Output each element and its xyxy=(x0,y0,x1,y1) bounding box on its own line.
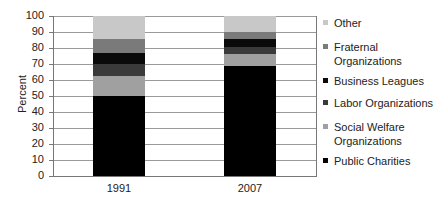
legend-swatch-icon xyxy=(323,44,328,49)
y-tick-label: 100 xyxy=(20,9,44,21)
legend-label: Social Welfare Organizations xyxy=(334,120,405,148)
x-tick-label: 2007 xyxy=(220,182,280,194)
y-tick-label: 20 xyxy=(20,137,44,149)
bar-segment xyxy=(93,96,145,176)
legend-label: Fraternal Organizations xyxy=(334,40,402,68)
bar-segment xyxy=(224,16,276,32)
y-tick-label: 80 xyxy=(20,41,44,53)
y-tick-label: 40 xyxy=(20,105,44,117)
plot-right-border xyxy=(316,16,317,177)
legend-swatch-icon xyxy=(323,100,328,105)
x-tick-label: 1991 xyxy=(89,182,149,194)
y-tick-label: 30 xyxy=(20,121,44,133)
bar-1991 xyxy=(93,16,145,176)
bar-segment xyxy=(93,53,145,64)
y-tick-label: 50 xyxy=(20,89,44,101)
y-tick-label: 90 xyxy=(20,25,44,37)
bar-2007 xyxy=(224,16,276,176)
x-axis-line xyxy=(53,176,316,177)
bar-segment xyxy=(93,64,145,76)
legend-swatch-icon xyxy=(323,20,328,25)
legend-swatch-icon xyxy=(323,78,328,83)
bar-segment xyxy=(224,39,276,47)
bar-segment xyxy=(93,16,145,39)
bar-segment xyxy=(224,32,276,39)
bar-segment xyxy=(224,66,276,176)
legend-label: Labor Organizations xyxy=(334,96,433,110)
y-tick-label: 10 xyxy=(20,153,44,165)
legend-swatch-icon xyxy=(323,124,328,129)
bar-segment xyxy=(93,76,145,96)
legend-label: Business Leagues xyxy=(334,74,424,88)
bar-segment xyxy=(93,39,145,53)
y-axis-line xyxy=(53,16,54,177)
y-tick-label: 60 xyxy=(20,73,44,85)
y-tick-label: 70 xyxy=(20,57,44,69)
legend-label: Other xyxy=(334,16,362,30)
y-tick-label: 0 xyxy=(20,169,44,181)
bar-segment xyxy=(224,47,276,53)
legend-swatch-icon xyxy=(323,158,328,163)
legend-label: Public Charities xyxy=(334,154,410,168)
bar-segment xyxy=(224,54,276,66)
